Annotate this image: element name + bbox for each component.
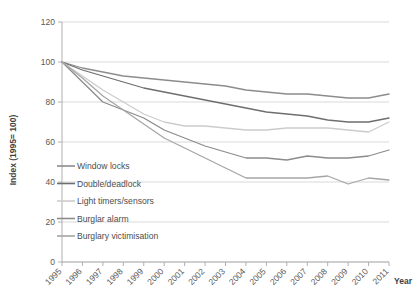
x-tick-label: 1999 <box>125 266 146 287</box>
y-tick-labels: 020406080100120 <box>41 17 55 267</box>
y-tick-label: 40 <box>46 177 56 187</box>
x-tick-label: 2001 <box>166 266 187 287</box>
series-line-3 <box>62 62 389 160</box>
x-tick-label: 2002 <box>186 266 207 287</box>
x-tick-labels: 1995199619971998199920002001200220032004… <box>43 266 391 287</box>
x-tick-label: 2008 <box>309 266 330 287</box>
y-tick-label: 120 <box>41 17 55 27</box>
x-tick-label: 2004 <box>227 266 248 287</box>
series-line-1 <box>62 62 389 122</box>
x-tick-label: 2003 <box>206 266 227 287</box>
series-line-0 <box>62 62 389 98</box>
y-tick-label: 0 <box>50 257 55 267</box>
x-tick-label: 2006 <box>268 266 289 287</box>
line-chart: 020406080100120 199519961997199819992000… <box>0 0 420 304</box>
x-tick-label: 1995 <box>43 266 64 287</box>
x-tick-label: 2005 <box>247 266 268 287</box>
y-tick-label: 20 <box>46 217 56 227</box>
x-axis <box>62 262 389 266</box>
x-tick-label: 2011 <box>370 266 390 286</box>
y-tick-label: 100 <box>41 57 55 67</box>
legend-label-2: Light timers/sensors <box>77 196 154 206</box>
legend-label-0: Window locks <box>77 161 130 171</box>
legend: Window locksDouble/deadlockLight timers/… <box>57 161 158 241</box>
x-tick-label: 2000 <box>145 266 166 287</box>
x-tick-label: 1997 <box>84 266 105 287</box>
y-tick-label: 80 <box>46 97 56 107</box>
y-axis-title: Index (1995= 100) <box>8 115 18 186</box>
x-axis-title: Year <box>394 276 413 286</box>
gridlines <box>58 22 389 262</box>
x-tick-label: 2010 <box>350 266 371 287</box>
y-tick-label: 60 <box>46 137 56 147</box>
x-tick-label: 2009 <box>329 266 350 287</box>
legend-label-4: Burglary victimisation <box>77 231 158 241</box>
legend-label-1: Double/deadlock <box>77 179 142 189</box>
x-tick-label: 1996 <box>63 266 84 287</box>
chart-canvas: 020406080100120 199519961997199819992000… <box>0 0 420 304</box>
x-tick-label: 1998 <box>104 266 125 287</box>
legend-label-3: Burglar alarm <box>77 214 129 224</box>
x-tick-label: 2007 <box>288 266 309 287</box>
